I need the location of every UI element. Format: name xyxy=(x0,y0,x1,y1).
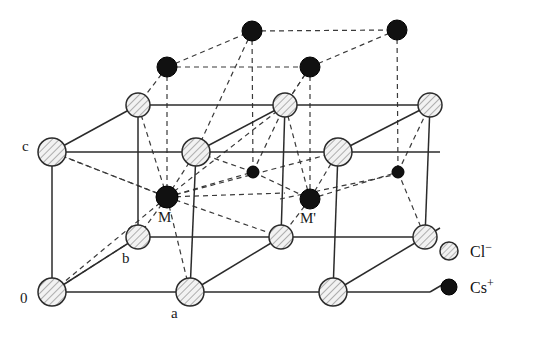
chloride-ion-cl-back-top-left xyxy=(126,93,150,117)
caesium-ion-cs-upper-mid xyxy=(300,57,320,77)
dashed-bond-layer xyxy=(52,30,430,292)
chloride-ion-cl-front-top-left xyxy=(38,138,66,166)
caesium-ion-cs-small-right xyxy=(392,166,404,178)
dashed-bond-cs-m-horiz xyxy=(167,193,285,197)
chloride-ion-cl-front-bottom-right xyxy=(319,278,347,306)
dashed-bond-m-to-o xyxy=(52,197,167,292)
dashed-bond-m-to-btl xyxy=(138,105,167,197)
lattice-edge-diag-topmid-bk xyxy=(196,105,285,152)
crystal-structure-svg: 0abcMM' Cl−Cs+ xyxy=(0,0,542,338)
lattice-edge-vert-back-mid xyxy=(281,105,285,237)
lattice-edge-vert-mid-front xyxy=(190,152,196,292)
label-c-axis: c xyxy=(22,138,29,154)
caesium-ion-cs-M xyxy=(156,186,178,208)
chloride-ion-cl-back-top-right xyxy=(418,93,442,117)
chloride-ion-cl-mid-row-left xyxy=(126,225,150,249)
lattice-edge-diag-r-mid xyxy=(333,237,425,292)
dashed-bond-cs-mp-row xyxy=(310,172,398,199)
label-a-axis: a xyxy=(171,305,178,321)
legend-swatch-chloride xyxy=(440,242,458,260)
legend: Cl−Cs+ xyxy=(440,240,494,296)
chloride-ion-cl-back-top-mid xyxy=(273,93,297,117)
lattice-edge-diag-a-mid xyxy=(190,237,281,292)
label-m-site: M xyxy=(158,209,171,225)
caesium-ion-cs-top-left xyxy=(242,21,262,41)
legend-swatch-caesium xyxy=(441,279,457,295)
caesium-ion-cs-upper-left xyxy=(157,57,177,77)
dashed-bond-m-to-midrow xyxy=(167,197,281,237)
chloride-ion-cl-front-bottom-mid xyxy=(176,278,204,306)
label-origin: 0 xyxy=(20,290,28,306)
label-b-axis: b xyxy=(122,250,130,266)
chloride-ion-cl-front-top-mid xyxy=(182,138,210,166)
legend-label-caesium-ion: Cs+ xyxy=(470,276,494,296)
dashed-bond-cs-top-row-1 xyxy=(252,30,397,31)
chloride-ion-cl-front-bottom-left xyxy=(38,278,66,306)
dashed-bond-cs-vert-3 xyxy=(252,31,253,172)
dashed-bond-cs-diag-1 xyxy=(167,31,252,67)
caesium-ion-cs-M-prime xyxy=(300,189,320,209)
chloride-ion-cl-front-top-right xyxy=(324,138,352,166)
legend-item-chloride-ion: Cl− xyxy=(440,240,492,260)
lattice-edge-vert-right-fr xyxy=(333,152,338,292)
chloride-ion-cl-mid-row-right xyxy=(413,225,437,249)
legend-label-chloride-ion: Cl− xyxy=(470,240,492,260)
dashed-bond-cs-vert-4 xyxy=(397,30,398,172)
chloride-ion-layer xyxy=(38,93,442,306)
dashed-bond-cstop-to-ftm xyxy=(196,31,252,152)
chloride-ion-cl-mid-row-mid xyxy=(269,225,293,249)
solid-edge-layer xyxy=(52,105,447,292)
dashed-bond-cs-mp-horiz xyxy=(280,174,398,199)
dashed-bond-cs-diag-2 xyxy=(310,30,397,67)
caesium-ion-cs-top-right xyxy=(387,20,407,40)
figure-canvas: 0abcMM' Cl−Cs+ xyxy=(0,0,542,338)
lattice-edge-vert-back-right xyxy=(425,105,430,237)
label-m-prime: M' xyxy=(300,210,316,226)
caesium-ion-cs-small-mid xyxy=(247,166,259,178)
lattice-edge-diag-toprt-bk xyxy=(338,105,430,152)
legend-item-caesium-ion: Cs+ xyxy=(441,276,494,296)
